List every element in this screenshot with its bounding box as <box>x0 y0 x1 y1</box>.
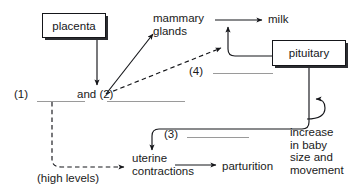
blank-label-2: and (2) <box>77 88 113 101</box>
node-placenta[interactable]: placenta <box>42 13 106 38</box>
annotation-high-levels: (high levels) <box>37 172 99 185</box>
node-mammary-glands: mammary glands <box>153 12 204 37</box>
connector-one-to-uterine-dashed <box>52 102 124 167</box>
blank-rule-1[interactable] <box>37 101 85 102</box>
node-pituitary-label: pituitary <box>289 47 329 59</box>
node-placenta-label: placenta <box>52 20 95 32</box>
node-increase-baby-size: increase in baby size and movement <box>290 126 344 176</box>
node-parturition: parturition <box>222 160 273 173</box>
connector-and2-to-pituitary-dashed <box>106 48 221 94</box>
node-milk: milk <box>268 13 288 26</box>
node-uterine-contractions: uterine contractions <box>132 152 194 177</box>
blank-rule-3[interactable] <box>187 137 249 138</box>
blank-rule-4[interactable] <box>213 73 273 74</box>
node-pituitary[interactable]: pituitary <box>272 40 346 66</box>
connector-pituitary-to-milk <box>228 27 272 56</box>
blank-label-4: (4) <box>189 65 203 78</box>
diagram-canvas: placenta pituitary mammary glands milk (… <box>0 0 362 193</box>
connector-baby-to-pituitary <box>307 99 325 119</box>
blank-rule-2[interactable] <box>107 101 185 102</box>
blank-label-3: (3) <box>164 128 178 141</box>
blank-label-1: (1) <box>14 88 28 101</box>
